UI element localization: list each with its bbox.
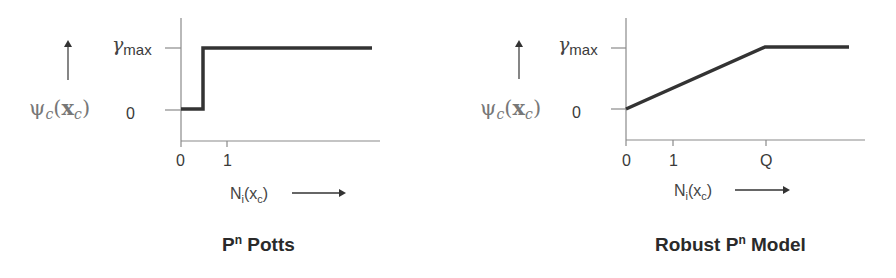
x-tick-label-q: Q — [760, 153, 772, 169]
n-symbol: N — [674, 182, 686, 199]
paren-open: ( — [504, 96, 512, 120]
chart-robust-pn-model: ψc(xc) γmax 0 0 1 Q Ni(xc) Robust Pn Mod… — [0, 0, 896, 278]
gamma-subscript: max — [569, 41, 597, 58]
title-suffix: Model — [746, 234, 806, 255]
chart-title: Robust Pn Model — [655, 235, 806, 254]
y-tick-label-gamma-max: γmax — [558, 35, 598, 54]
x-open: (x — [688, 182, 701, 199]
x-subscript: c — [701, 190, 707, 202]
gamma-symbol: γ — [558, 33, 569, 55]
linear-truncated-curve — [626, 47, 849, 109]
psi-symbol: ψ — [480, 96, 496, 120]
title-prefix: Robust P — [655, 234, 738, 255]
paren-close: ) — [533, 96, 541, 120]
x-tick-label-1: 1 — [669, 153, 678, 169]
n-subscript: i — [686, 190, 688, 202]
x-direction-arrow-icon — [735, 186, 790, 194]
y-tick-label-zero: 0 — [572, 105, 581, 121]
y-axis-label: ψc(xc) — [480, 97, 541, 119]
x-axis-label: Ni(xc) — [674, 183, 712, 199]
psi-subscript: c — [496, 106, 504, 122]
title-superscript: n — [738, 233, 745, 247]
x-bold: x — [513, 95, 526, 120]
paren-close: ) — [707, 182, 712, 199]
y-direction-arrow-icon — [515, 40, 523, 79]
x-tick-label-0: 0 — [622, 153, 631, 169]
x-subscript: c — [525, 106, 533, 122]
